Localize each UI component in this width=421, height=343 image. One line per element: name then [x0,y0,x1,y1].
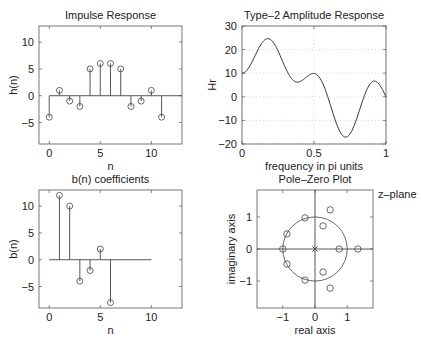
chart-title: Pole–Zero Plot [279,173,352,185]
x-tick-label: 5 [97,311,103,323]
x-tick-label: 0 [312,311,318,323]
y-tick-label: 0 [246,243,252,255]
y-tick-label: 10 [225,67,237,79]
y-axis-label: b(n) [7,239,19,259]
x-tick-label: 1 [383,147,389,159]
zplane-annotation: z–plane [378,188,417,200]
chart-title: b(n) coefficients [72,173,150,185]
y-axis-label: imaginary axis [225,213,237,284]
x-tick-label: 5 [97,147,103,159]
chart-title: Type–2 Amplitude Response [244,9,384,21]
x-axis-label: n [107,324,113,336]
amplitude-curve [242,39,386,137]
x-axis-label: frequency in pi units [265,160,363,172]
x-axis-label: n [107,160,113,172]
y-tick-label: 0 [28,254,34,266]
x-tick-label: 0 [46,147,52,159]
y-tick-label: −5 [21,281,34,293]
y-tick-label: −1 [239,275,252,287]
y-axis-label: Hr [206,79,218,91]
y-tick-label: 10 [22,200,34,212]
x-tick-label: 0 [46,311,52,323]
y-tick-label: 0 [231,91,237,103]
chart-title: Impulse Response [65,9,156,21]
y-tick-label: −20 [218,138,237,150]
x-tick-label: 1 [344,311,350,323]
y-tick-label: 30 [225,20,237,32]
amplitude-chart: 00.51−20−100102030Type–2 Amplitude Respo… [206,9,389,172]
y-tick-label: −5 [21,117,34,129]
zero-marker [284,231,290,237]
y-tick-label: 10 [22,36,34,48]
y-tick-label: 0 [28,90,34,102]
x-tick-label: −1 [277,311,290,323]
x-tick-label: 0 [239,147,245,159]
y-tick-label: −10 [218,114,237,126]
x-axis-label: real axis [295,324,336,336]
y-tick-label: 20 [225,44,237,56]
zero-marker [284,261,290,267]
y-tick-label: 5 [28,227,34,239]
polezero-chart: −101−101Pole–Zero Plotreal axisimaginary… [225,173,417,336]
y-tick-label: 1 [246,211,252,223]
y-axis-label: h(n) [7,75,19,95]
x-tick-label: 10 [145,147,157,159]
x-tick-label: 0.5 [306,147,321,159]
zero-marker [320,223,326,229]
zero-marker [320,269,326,275]
x-tick-label: 10 [145,311,157,323]
zero-marker [327,285,333,291]
figure: 0510−50510Impulse Responsenh(n)00.51−20−… [0,0,421,343]
zero-marker [327,207,333,213]
y-tick-label: 5 [28,63,34,75]
impulse-chart: 0510−50510Impulse Responsenh(n) [7,9,182,172]
bcoef-chart: 0510−50510b(n) coefficientsnb(n) [7,173,182,336]
